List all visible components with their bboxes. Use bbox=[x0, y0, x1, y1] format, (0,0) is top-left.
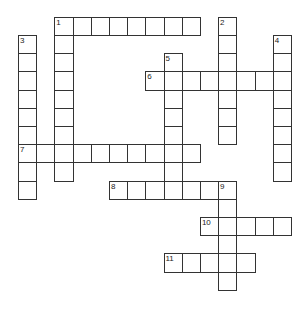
crossword-cell[interactable] bbox=[218, 53, 237, 72]
crossword-cell[interactable] bbox=[127, 144, 146, 163]
crossword-cell[interactable] bbox=[273, 217, 292, 236]
crossword-cell[interactable] bbox=[255, 71, 274, 90]
crossword-cell[interactable] bbox=[109, 17, 128, 36]
crossword-cell[interactable]: 1 bbox=[54, 17, 73, 36]
crossword-cell[interactable] bbox=[164, 90, 183, 109]
clue-number: 5 bbox=[166, 54, 170, 63]
crossword-cell[interactable] bbox=[200, 71, 219, 90]
crossword-cell[interactable] bbox=[54, 144, 73, 163]
crossword-cell[interactable] bbox=[273, 162, 292, 181]
crossword-cell[interactable]: 6 bbox=[145, 71, 164, 90]
clue-number: 6 bbox=[147, 72, 151, 81]
crossword-cell[interactable] bbox=[182, 253, 201, 272]
crossword-cell[interactable] bbox=[145, 181, 164, 200]
crossword-cell[interactable]: 11 bbox=[164, 253, 183, 272]
crossword-cell[interactable] bbox=[164, 144, 183, 163]
crossword-cell[interactable] bbox=[145, 144, 164, 163]
crossword-cell[interactable] bbox=[218, 126, 237, 145]
crossword-cell[interactable] bbox=[218, 199, 237, 218]
crossword-cell[interactable] bbox=[54, 35, 73, 54]
crossword-cell[interactable] bbox=[236, 253, 255, 272]
crossword-cell[interactable] bbox=[273, 90, 292, 109]
crossword-cell[interactable]: 10 bbox=[200, 217, 219, 236]
crossword-grid: 1237456891011 bbox=[0, 0, 305, 311]
crossword-cell[interactable] bbox=[91, 144, 110, 163]
crossword-cell[interactable] bbox=[54, 108, 73, 127]
crossword-cell[interactable] bbox=[255, 217, 274, 236]
crossword-cell[interactable] bbox=[164, 162, 183, 181]
crossword-cell[interactable] bbox=[200, 253, 219, 272]
clue-number: 1 bbox=[56, 18, 60, 27]
crossword-cell[interactable] bbox=[145, 17, 164, 36]
crossword-cell[interactable] bbox=[73, 144, 92, 163]
crossword-cell[interactable] bbox=[73, 17, 92, 36]
crossword-cell[interactable] bbox=[54, 162, 73, 181]
crossword-cell[interactable] bbox=[273, 126, 292, 145]
crossword-cell[interactable] bbox=[127, 17, 146, 36]
crossword-cell[interactable]: 4 bbox=[273, 35, 292, 54]
clue-number: 3 bbox=[20, 36, 24, 45]
crossword-cell[interactable] bbox=[218, 71, 237, 90]
crossword-cell[interactable] bbox=[200, 181, 219, 200]
crossword-cell[interactable] bbox=[236, 71, 255, 90]
crossword-cell[interactable] bbox=[164, 108, 183, 127]
crossword-cell[interactable] bbox=[273, 53, 292, 72]
crossword-cell[interactable] bbox=[18, 108, 37, 127]
crossword-cell[interactable] bbox=[236, 217, 255, 236]
crossword-cell[interactable]: 3 bbox=[18, 35, 37, 54]
clue-number: 9 bbox=[220, 182, 224, 191]
clue-number: 8 bbox=[111, 182, 115, 191]
crossword-cell[interactable] bbox=[218, 253, 237, 272]
crossword-cell[interactable] bbox=[18, 53, 37, 72]
crossword-cell[interactable] bbox=[164, 71, 183, 90]
clue-number: 10 bbox=[202, 218, 211, 227]
crossword-cell[interactable] bbox=[127, 181, 146, 200]
crossword-cell[interactable] bbox=[164, 126, 183, 145]
crossword-cell[interactable] bbox=[182, 71, 201, 90]
crossword-cell[interactable] bbox=[18, 90, 37, 109]
crossword-cell[interactable] bbox=[18, 71, 37, 90]
crossword-cell[interactable] bbox=[182, 181, 201, 200]
crossword-cell[interactable] bbox=[54, 53, 73, 72]
crossword-cell[interactable]: 9 bbox=[218, 181, 237, 200]
crossword-cell[interactable] bbox=[18, 181, 37, 200]
clue-number: 4 bbox=[275, 36, 279, 45]
crossword-cell[interactable] bbox=[218, 217, 237, 236]
crossword-cell[interactable] bbox=[218, 108, 237, 127]
crossword-cell[interactable] bbox=[164, 17, 183, 36]
crossword-cell[interactable] bbox=[218, 35, 237, 54]
crossword-cell[interactable] bbox=[54, 126, 73, 145]
crossword-cell[interactable] bbox=[91, 17, 110, 36]
crossword-cell[interactable] bbox=[18, 162, 37, 181]
crossword-cell[interactable] bbox=[54, 90, 73, 109]
crossword-cell[interactable] bbox=[273, 108, 292, 127]
crossword-cell[interactable]: 2 bbox=[218, 17, 237, 36]
clue-number: 2 bbox=[220, 18, 224, 27]
crossword-cell[interactable]: 7 bbox=[18, 144, 37, 163]
crossword-cell[interactable] bbox=[54, 71, 73, 90]
crossword-cell[interactable] bbox=[218, 272, 237, 291]
clue-number: 11 bbox=[166, 254, 174, 263]
crossword-cell[interactable] bbox=[164, 181, 183, 200]
crossword-cell[interactable] bbox=[182, 144, 201, 163]
crossword-cell[interactable] bbox=[182, 17, 201, 36]
crossword-cell[interactable] bbox=[218, 235, 237, 254]
crossword-cell[interactable]: 5 bbox=[164, 53, 183, 72]
crossword-cell[interactable] bbox=[109, 144, 128, 163]
crossword-cell[interactable] bbox=[273, 144, 292, 163]
crossword-cell[interactable]: 8 bbox=[109, 181, 128, 200]
clue-number: 7 bbox=[20, 145, 24, 154]
crossword-cell[interactable] bbox=[36, 144, 55, 163]
crossword-cell[interactable] bbox=[273, 71, 292, 90]
crossword-cell[interactable] bbox=[218, 90, 237, 109]
crossword-cell[interactable] bbox=[18, 126, 37, 145]
